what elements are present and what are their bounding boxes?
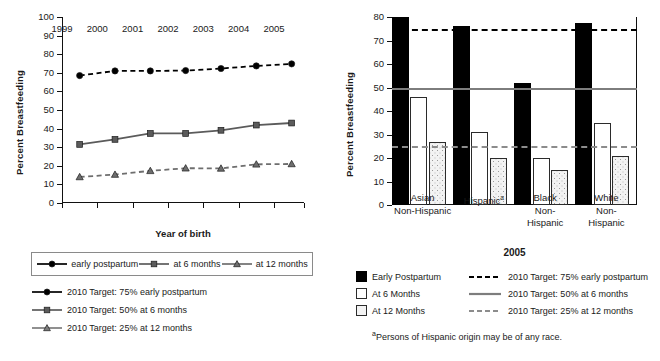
data-point — [77, 72, 83, 78]
legend-item-at-6-months: at 6 months — [138, 258, 220, 270]
data-point — [218, 127, 224, 133]
category-label-black: BlackNon-Hispanic — [527, 192, 563, 230]
bar-legend-row: At 12 Months2010 Target: 25% at 12 month… — [356, 302, 660, 319]
y-tick-label: 50 — [28, 103, 54, 116]
x-tick — [97, 203, 98, 208]
target-line-25 — [392, 146, 637, 148]
category-label-line: Black — [527, 192, 563, 205]
y-tick-label: 60 — [358, 57, 384, 70]
legend-label: Early Postpartum — [372, 272, 468, 282]
bar-legend-row: At 6 Months2010 Target: 50% at 6 months — [356, 285, 660, 302]
legend-swatch-white — [356, 288, 367, 299]
data-point — [112, 136, 118, 142]
bar-chart-panel: Percent Breastfeeding 01020304050607080 … — [330, 0, 660, 361]
target-legend-label: 2010 Target: 25% at 12 months — [67, 323, 192, 333]
category-label-line: Non-Hispanic — [394, 205, 451, 218]
category-label-line: White — [588, 192, 624, 205]
y-tick-label: 10 — [28, 177, 54, 190]
y-tick-label: 50 — [358, 81, 384, 94]
footnote-marker: a — [500, 194, 504, 201]
target-legend-row: 2010 Target: 50% at 6 months — [31, 301, 331, 319]
legend-item-early-postpartum: early postpartum — [36, 258, 138, 270]
legend-label: At 6 Months — [372, 289, 468, 299]
category-label-line: Non- — [527, 205, 563, 218]
bar-chart-y-axis-title: Percent Breastfeeding — [344, 72, 355, 177]
y-tick-label: 80 — [358, 10, 384, 23]
legend-target-label: 2010 Target: 75% early postpartum — [508, 272, 648, 282]
y-tick-label: 70 — [358, 34, 384, 47]
bar-early-postpartum — [514, 83, 531, 205]
y-tick-label: 70 — [28, 66, 54, 79]
target-legend-label: 2010 Target: 75% early postpartum — [67, 287, 207, 297]
legend-label: At 12 Months — [372, 306, 468, 316]
data-point — [112, 68, 118, 74]
legend-marker-square-icon — [31, 304, 63, 316]
data-point — [253, 63, 259, 69]
category-label-white: WhiteNon-Hispanic — [588, 192, 624, 230]
x-tick — [62, 203, 63, 208]
bar-early-postpartum — [453, 26, 470, 205]
line-chart-series-layer — [62, 17, 304, 203]
y-tick: 0 — [387, 205, 392, 206]
y-tick-label: 10 — [358, 175, 384, 188]
line-chart-plot-area: 0102030405060708090100 19992000200120022… — [62, 17, 304, 203]
legend-marker-square-icon — [138, 258, 170, 270]
target-line-75 — [392, 29, 637, 31]
y-tick-label: 30 — [28, 140, 54, 153]
target-legend-label: 2010 Target: 50% at 6 months — [67, 305, 187, 315]
target-legend-row: 2010 Target: 75% early postpartum — [31, 283, 331, 301]
bar-chart-footnote: aPersons of Hispanic origin may be of an… — [372, 330, 562, 342]
y-tick-label: 20 — [28, 159, 54, 172]
y-tick-label: 40 — [28, 122, 54, 135]
y-tick-label: 0 — [28, 196, 54, 209]
data-point — [289, 61, 295, 67]
legend-swatch-black — [356, 271, 367, 282]
legend-item-at-12-months: at 12 months — [221, 258, 308, 270]
breastfeeding-figure: Percent Breastfeeding 010203040506070809… — [0, 0, 660, 361]
legend-swatch-dotted — [356, 305, 367, 316]
data-point — [77, 142, 83, 148]
y-tick-label: 40 — [358, 104, 384, 117]
line-chart-x-axis-title: Year of birth — [62, 228, 304, 239]
x-tick — [203, 203, 204, 208]
bar-chart-legend: Early Postpartum2010 Target: 75% early p… — [356, 268, 660, 319]
bar-chart-right-spine — [636, 17, 637, 205]
line-chart-y-axis-title: Percent Breastfeeding — [14, 70, 25, 175]
bar-chart-title: 2005 — [392, 247, 637, 258]
legend-target-label: 2010 Target: 25% at 12 months — [508, 306, 633, 316]
data-point — [147, 131, 153, 137]
y-tick-label: 80 — [28, 47, 54, 60]
target-line-50 — [392, 88, 637, 90]
category-label-line: Hispanica — [464, 192, 504, 208]
target-legend-row: 2010 Target: 25% at 12 months — [31, 319, 331, 337]
legend-target-label: 2010 Target: 50% at 6 months — [508, 289, 628, 299]
y-tick-label: 100 — [28, 10, 54, 23]
bar-early-postpartum — [392, 17, 409, 205]
legend-label: early postpartum — [71, 259, 138, 269]
x-tick-end — [304, 203, 305, 208]
x-tick — [168, 203, 169, 208]
bar-chart-plot-area: 01020304050607080 — [392, 17, 637, 205]
data-point — [253, 122, 259, 128]
category-label-line: Non- — [588, 205, 624, 218]
data-point — [218, 65, 224, 71]
legend-target-line-icon — [468, 306, 502, 316]
y-tick-label: 20 — [358, 151, 384, 164]
legend-marker-circle-icon — [31, 286, 63, 298]
legend-target-line-icon — [468, 272, 502, 282]
category-label-line: Asian — [394, 192, 451, 205]
y-tick-label: 90 — [28, 29, 54, 42]
legend-target-line-icon — [468, 289, 502, 299]
x-tick — [133, 203, 134, 208]
bar-at-6-months — [410, 97, 427, 205]
line-chart-legend: early postpartumat 6 monthsat 12 months — [31, 252, 313, 276]
x-tick — [274, 203, 275, 208]
bar-early-postpartum — [575, 23, 592, 205]
y-tick-label: 60 — [28, 84, 54, 97]
data-point — [288, 160, 295, 166]
bar-legend-row: Early Postpartum2010 Target: 75% early p… — [356, 268, 660, 285]
category-label-line: Hispanic — [588, 217, 624, 230]
line-chart-target-legend: 2010 Target: 75% early postpartum2010 Ta… — [31, 283, 331, 337]
data-point — [183, 131, 189, 137]
category-label-asian: AsianNon-Hispanic — [394, 192, 451, 217]
